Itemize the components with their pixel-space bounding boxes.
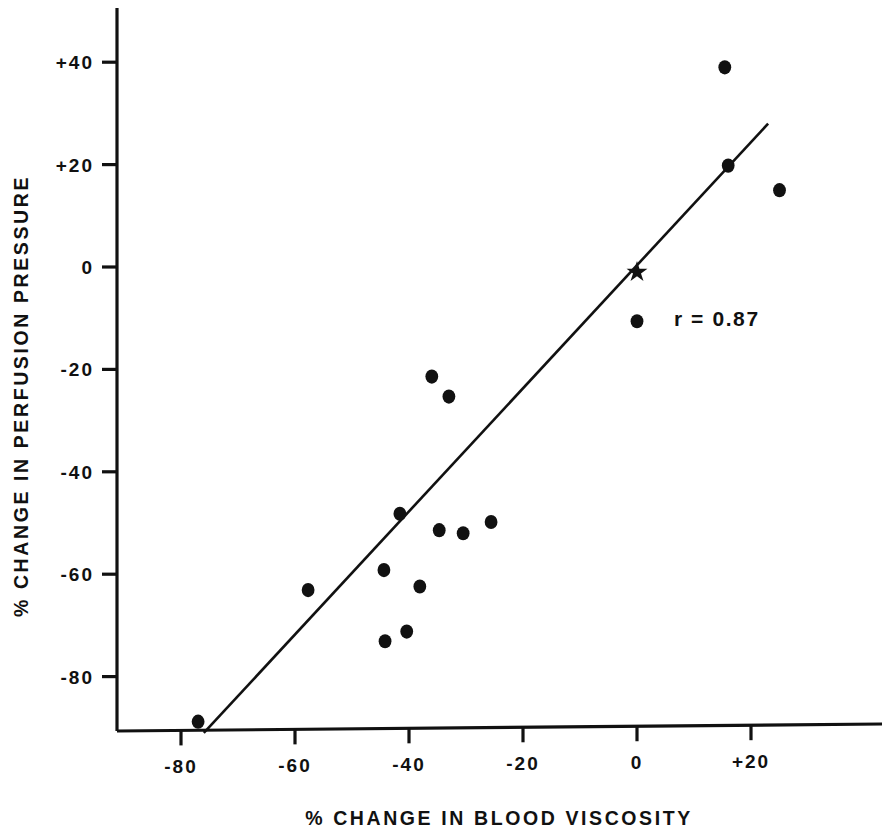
data-point-marker <box>631 314 644 328</box>
x-tick-label: 0 <box>631 752 644 773</box>
data-point-marker <box>192 715 205 729</box>
regression-line <box>204 124 768 733</box>
x-tick-label: -60 <box>278 755 311 776</box>
data-point-marker <box>302 583 315 597</box>
data-point-marker <box>378 563 391 577</box>
y-tick-label: -20 <box>61 359 94 380</box>
axis-lines <box>117 8 882 731</box>
x-tick-label: -40 <box>392 754 425 775</box>
data-point-marker <box>425 369 438 383</box>
chart-annotations: r = 0.87 <box>674 307 760 330</box>
y-tick-label: 0 <box>81 257 94 278</box>
plot-canvas: -80-60-40-200+20+40 -80-60-40-200+20 r =… <box>0 0 882 838</box>
x-axis-tick-labels: -80-60-40-200+20 <box>164 751 770 777</box>
data-point-marker <box>773 183 786 197</box>
y-tick-label: +20 <box>56 155 94 176</box>
y-axis-tick-labels: -80-60-40-200+20+40 <box>56 52 94 687</box>
x-tick-label: +20 <box>732 751 770 772</box>
x-axis-line <box>117 724 882 731</box>
data-point-marker <box>393 507 406 521</box>
data-point-marker <box>485 515 498 529</box>
data-point-marker <box>433 523 446 537</box>
y-tick-label: -60 <box>61 564 94 585</box>
correlation-annotation: r = 0.87 <box>674 307 760 330</box>
data-point-marker <box>443 389 456 403</box>
x-tick-label: -80 <box>164 756 197 777</box>
data-point-star-marker <box>627 261 648 281</box>
data-point-marker <box>722 159 735 173</box>
y-axis-title: % CHANGE IN PERFUSION PRESSURE <box>10 175 32 617</box>
data-point-marker <box>457 526 470 540</box>
data-point-marker <box>413 579 426 593</box>
data-point-marker <box>400 624 413 638</box>
regression-line-path <box>204 124 768 733</box>
x-tick-label: -20 <box>506 753 539 774</box>
y-tick-label: +40 <box>56 52 94 73</box>
data-point-marker <box>718 60 731 74</box>
scatter-plot-figure: -80-60-40-200+20+40 -80-60-40-200+20 r =… <box>0 0 882 838</box>
y-tick-label: -40 <box>61 462 94 483</box>
y-axis-ticks <box>102 62 117 676</box>
data-point-series <box>192 60 786 729</box>
x-axis-title: % CHANGE IN BLOOD VISCOSITY <box>305 807 693 829</box>
data-point-marker <box>379 634 392 648</box>
y-tick-label: -80 <box>61 667 94 688</box>
